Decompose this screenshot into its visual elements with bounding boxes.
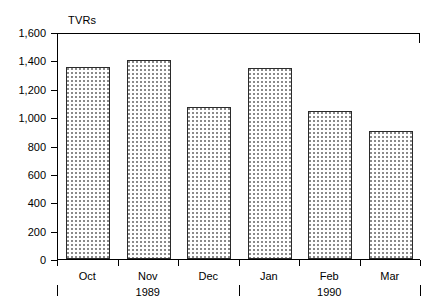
x-axis-label-oct: Oct [79, 270, 96, 282]
y-axis-tick [51, 232, 57, 233]
y-axis-tick-label: 0 [40, 254, 46, 266]
group-label-1990: 1990 [317, 286, 341, 298]
x-axis-label-jan: Jan [260, 270, 278, 282]
x-axis-tick [239, 260, 240, 266]
y-axis-tick-label: 400 [28, 197, 46, 209]
y-axis-tick [51, 33, 57, 34]
y-axis-tick [51, 90, 57, 91]
bar-oct [66, 67, 110, 259]
y-axis-tick [51, 118, 57, 119]
bar-mar [369, 131, 413, 259]
x-axis-label-dec: Dec [198, 270, 218, 282]
y-axis-tick [51, 203, 57, 204]
y-axis-tick [51, 147, 57, 148]
bar-dec [187, 107, 231, 259]
y-axis-tick-label: 1,200 [18, 84, 46, 96]
y-axis-tick-label: 1,000 [18, 112, 46, 124]
y-axis-tick [51, 61, 57, 62]
bar-nov [127, 60, 171, 259]
x-axis-label-mar: Mar [380, 270, 399, 282]
group-separator-tick [239, 285, 240, 296]
x-axis-tick [420, 260, 421, 266]
y-axis-tick-label: 1,400 [18, 55, 46, 67]
x-axis-tick [118, 260, 119, 266]
bar-feb [308, 111, 352, 259]
bar-jan [248, 68, 292, 259]
y-axis-tick [51, 175, 57, 176]
y-axis-tick-label: 1,600 [18, 27, 46, 39]
group-label-1989: 1989 [136, 286, 160, 298]
x-axis-tick [178, 260, 179, 266]
x-axis-tick [57, 260, 58, 266]
y-axis-tick-label: 200 [28, 226, 46, 238]
y-axis-tick-label: 800 [28, 141, 46, 153]
x-axis-tick [360, 260, 361, 266]
x-axis-label-nov: Nov [138, 270, 158, 282]
group-separator-tick [420, 285, 421, 296]
x-axis-label-feb: Feb [320, 270, 339, 282]
y-axis-title: TVRs [68, 14, 96, 26]
group-separator-tick [57, 285, 58, 296]
x-axis-tick [299, 260, 300, 266]
plot-area [57, 33, 420, 260]
chart-figure: TVRs 02004006008001,0001,2001,4001,600 O… [0, 0, 440, 306]
y-axis-tick-label: 600 [28, 169, 46, 181]
